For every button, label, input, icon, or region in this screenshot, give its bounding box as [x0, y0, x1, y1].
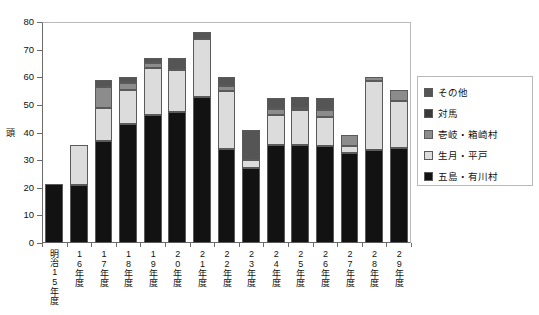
x-tick-mark: [42, 243, 43, 247]
bar: [218, 22, 236, 243]
y-tick-label: 20: [8, 183, 34, 193]
bar-segment: [95, 108, 113, 141]
x-tick-mark: [411, 243, 412, 247]
x-tick-label: 18年度: [123, 249, 134, 287]
legend-item: 対馬: [424, 103, 528, 124]
bar-segment: [316, 117, 334, 146]
bar-segment: [119, 90, 137, 125]
chart-page: 01020304050607080 頭 明治15年度16年度17年度18年度19…: [0, 0, 539, 315]
bar-series-layer: [42, 22, 411, 243]
bar-segment: [365, 150, 383, 243]
bar-segment: [144, 63, 162, 67]
legend-swatch: [424, 130, 433, 139]
x-tick-mark: [288, 243, 289, 247]
bar-segment: [119, 83, 137, 90]
bar-segment: [144, 115, 162, 243]
bar-segment: [95, 80, 113, 87]
bar: [168, 22, 186, 243]
bar-segment: [365, 77, 383, 81]
legend-label: 壱岐・箱崎村: [438, 130, 498, 140]
y-tick-label: 30: [8, 155, 34, 165]
x-tick-label: 22年度: [222, 249, 233, 287]
bar-segment: [242, 168, 260, 243]
x-tick-mark: [116, 243, 117, 247]
x-tick-label: 25年度: [295, 249, 306, 287]
legend-label: 五島・有川村: [438, 172, 498, 182]
bar: [316, 22, 334, 243]
x-tick-mark: [239, 243, 240, 247]
bar-segment: [70, 145, 88, 185]
x-tick-mark: [214, 243, 215, 247]
bar: [45, 22, 63, 243]
x-tick-label: 21年度: [197, 249, 208, 287]
bar-segment: [291, 108, 309, 111]
bar-segment: [267, 145, 285, 243]
bar-segment: [95, 87, 113, 108]
bar-segment: [390, 101, 408, 148]
bar-segment: [193, 39, 211, 97]
x-tick-mark: [190, 243, 191, 247]
x-tick-mark: [337, 243, 338, 247]
bar-segment: [242, 130, 260, 160]
bar-segment: [291, 145, 309, 243]
bar-segment: [193, 97, 211, 243]
bar-segment: [316, 110, 334, 117]
x-tick-mark: [386, 243, 387, 247]
bar-segment: [218, 91, 236, 149]
legend: その他対馬壱岐・箱崎村生月・平戸五島・有川村: [417, 76, 533, 186]
bar-segment: [193, 32, 211, 39]
legend-item: その他: [424, 82, 528, 103]
x-tick-label: 29年度: [394, 249, 405, 287]
bar: [291, 22, 309, 243]
x-tick-mark: [263, 243, 264, 247]
x-tick-label: 明治15年度: [49, 249, 60, 305]
bar-segment: [168, 58, 186, 70]
bar-segment: [341, 146, 359, 153]
bar: [365, 22, 383, 243]
bar: [193, 22, 211, 243]
x-tick-label: 24年度: [271, 249, 282, 287]
x-tick-label: 20年度: [172, 249, 183, 287]
legend-item: 五島・有川村: [424, 166, 528, 187]
bar-segment: [341, 153, 359, 243]
y-tick-label: 50: [8, 100, 34, 110]
bar: [95, 22, 113, 243]
x-tick-label: 19年度: [148, 249, 159, 287]
x-tick-label: 16年度: [74, 249, 85, 287]
bar-segment: [168, 112, 186, 243]
bar-segment: [119, 77, 137, 83]
bar-segment: [291, 110, 309, 145]
x-tick-mark: [67, 243, 68, 247]
bar-segment: [218, 149, 236, 243]
bar-segment: [316, 98, 334, 110]
bar: [144, 22, 162, 243]
bar-segment: [218, 86, 236, 92]
y-tick-label: 70: [8, 45, 34, 55]
x-tick-mark: [91, 243, 92, 247]
bar-segment: [267, 115, 285, 145]
legend-swatch: [424, 109, 433, 118]
bar: [119, 22, 137, 243]
bar-segment: [316, 146, 334, 243]
x-tick-mark: [362, 243, 363, 247]
bar-segment: [70, 185, 88, 243]
bar: [242, 22, 260, 243]
y-tick-label: 10: [8, 210, 34, 220]
bar-segment: [168, 70, 186, 111]
bar: [70, 22, 88, 243]
bar-segment: [45, 184, 63, 243]
x-tick-label: 27年度: [345, 249, 356, 287]
bar-segment: [242, 160, 260, 168]
bar-segment: [341, 135, 359, 146]
bar-segment: [267, 98, 285, 109]
legend-item: 壱岐・箱崎村: [424, 124, 528, 145]
bar: [267, 22, 285, 243]
legend-label: その他: [438, 88, 468, 98]
x-tick-mark: [140, 243, 141, 247]
bar-segment: [218, 77, 236, 85]
legend-label: 生月・平戸: [438, 151, 488, 161]
x-tick-label: 28年度: [369, 249, 380, 287]
y-tick-label: 60: [8, 72, 34, 82]
bar-segment: [390, 90, 408, 101]
legend-swatch: [424, 172, 433, 181]
